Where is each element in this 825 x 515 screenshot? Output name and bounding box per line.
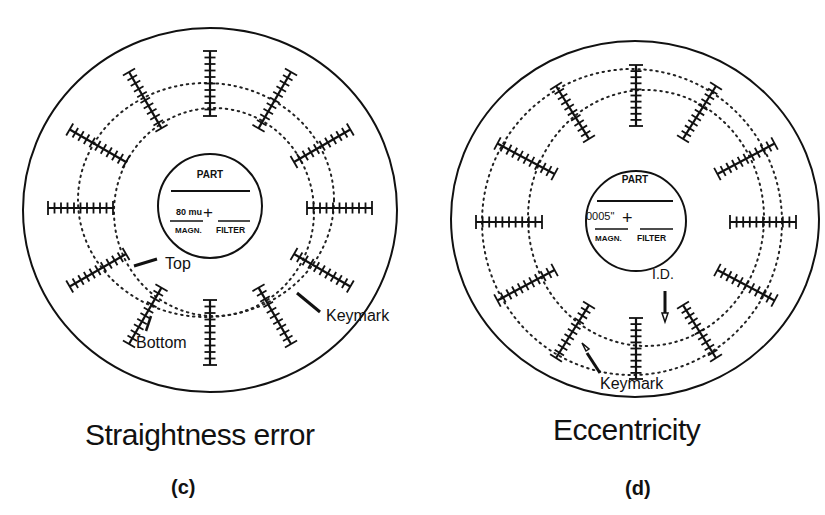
tick-bar (629, 65, 643, 126)
keymark-leader (297, 293, 320, 312)
top-label: Top (165, 255, 191, 272)
magn-label: MAGN. (175, 226, 202, 235)
tick-bar (252, 284, 297, 347)
panel-d-title: Eccentricity (553, 413, 700, 447)
tick-bar (203, 51, 217, 116)
plus-mark: + (622, 208, 633, 228)
panel-d-sublabel: (d) (625, 477, 651, 500)
tick-bar (66, 123, 129, 168)
tick-bar (494, 137, 558, 180)
tick-bar (677, 82, 722, 142)
magn-label: MAGN. (595, 234, 622, 243)
tick-bar (123, 69, 168, 132)
id-pointer (662, 291, 668, 322)
tick-bar (291, 248, 354, 293)
id-label: I.D. (652, 266, 674, 282)
tick-bar (291, 123, 354, 168)
eccentricity-value: 0005" (586, 210, 614, 222)
panel-c-title: Straightness error (85, 418, 314, 452)
filter-label: FILTER (637, 233, 666, 243)
panel-straightness: PART 80 mu + MAGN. FILTER Top Bottom Key… (23, 28, 397, 392)
part-label: PART (197, 169, 223, 180)
magn-value: 80 mu (176, 207, 202, 217)
keymark-pointer (582, 343, 600, 373)
keymark-label: Keymark (600, 375, 664, 392)
filter-label: FILTER (216, 225, 245, 235)
tick-bar (252, 69, 297, 132)
tick-bar (476, 215, 542, 229)
top-leader (134, 259, 157, 266)
tick-bar (629, 318, 643, 379)
tick-bar (307, 201, 372, 215)
tick-bar (494, 264, 558, 307)
tick-bar (66, 248, 129, 293)
tick-bar (48, 201, 113, 215)
panel-c-sublabel: (c) (171, 476, 195, 499)
tick-bar (730, 215, 796, 229)
part-label: PART (622, 174, 648, 185)
panel-eccentricity: PART 0005" + MAGN. FILTER I.D. Keymark (451, 41, 819, 397)
keymark-label: Keymark (326, 307, 390, 324)
bottom-label: Bottom (136, 334, 187, 351)
tick-bar (550, 82, 595, 142)
plus-mark: + (203, 203, 213, 222)
tick-bar (677, 301, 722, 361)
tick-bar (203, 300, 217, 365)
tick-bar (714, 137, 778, 180)
